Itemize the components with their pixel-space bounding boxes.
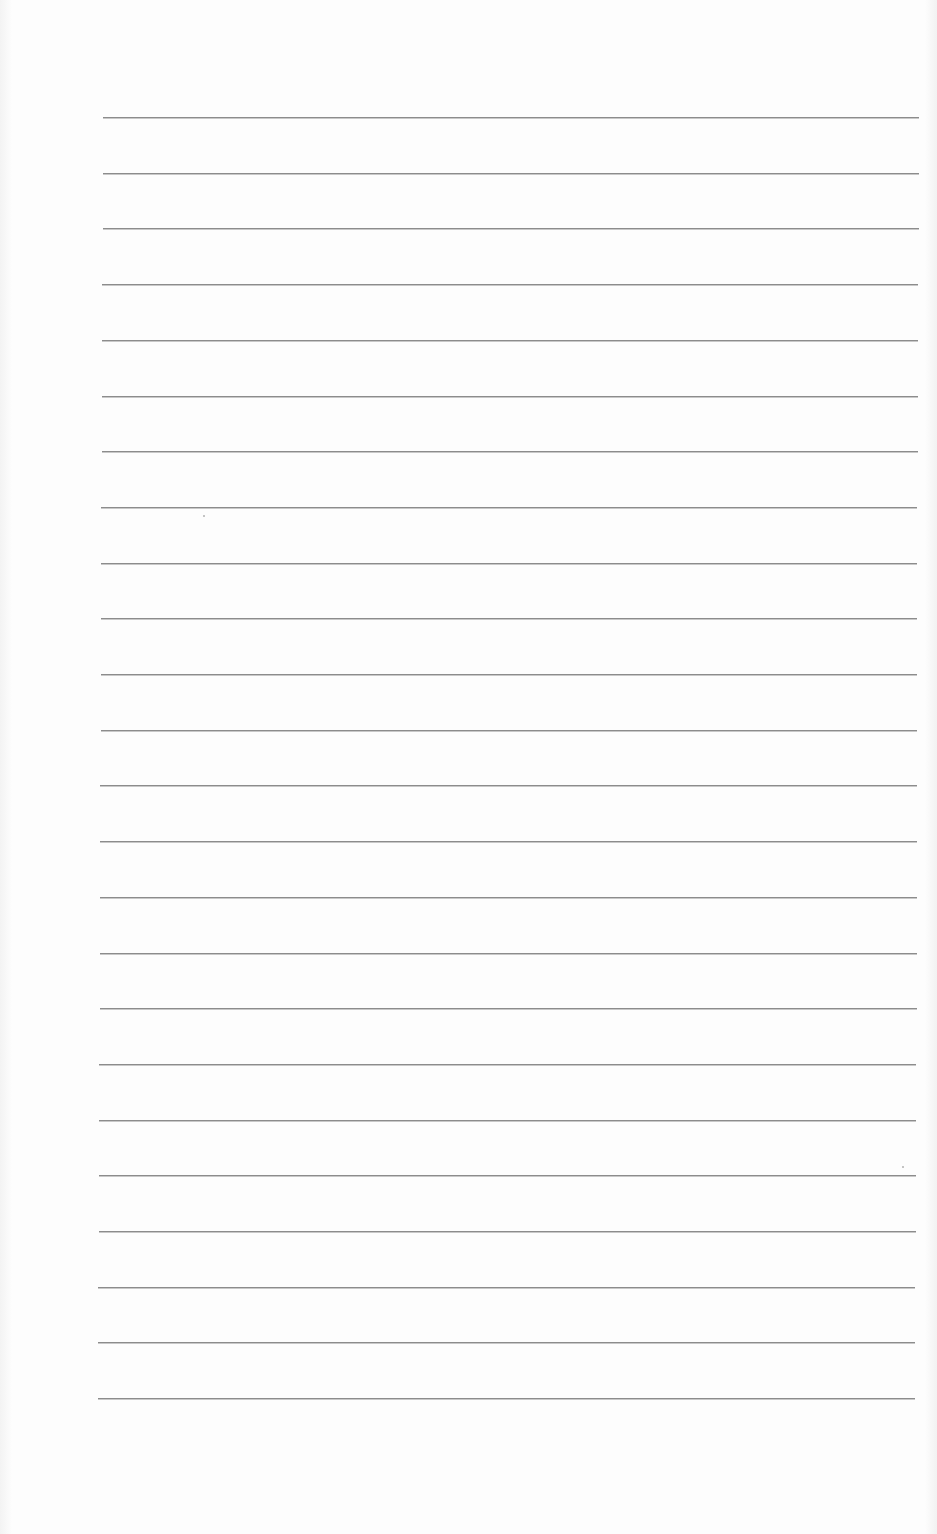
ruled-line — [103, 228, 919, 230]
ruled-line — [101, 674, 917, 676]
ruled-line — [100, 953, 917, 955]
ruled-line — [99, 1120, 916, 1122]
ruled-line — [102, 340, 918, 342]
ruled-line — [99, 1231, 916, 1233]
ruled-line — [102, 451, 918, 453]
ruled-line — [99, 1175, 916, 1177]
ruled-line — [100, 1008, 917, 1010]
ruled-line — [101, 618, 917, 620]
ruled-line — [100, 785, 917, 787]
ruled-line — [101, 507, 917, 509]
ruled-line — [99, 1064, 916, 1066]
paper-speck — [203, 515, 205, 517]
ruled-line — [102, 396, 918, 398]
ruled-line — [101, 563, 917, 565]
lined-paper-page — [0, 0, 937, 1534]
ruled-line — [100, 897, 917, 899]
ruled-line — [103, 117, 919, 119]
ruled-line — [98, 1398, 915, 1400]
ruled-line — [98, 1342, 915, 1344]
ruled-line — [103, 173, 919, 175]
ruled-line — [102, 284, 918, 286]
paper-speck — [902, 1166, 904, 1168]
ruled-line — [98, 1287, 915, 1289]
ruled-line — [101, 730, 917, 732]
ruled-line — [100, 841, 917, 843]
